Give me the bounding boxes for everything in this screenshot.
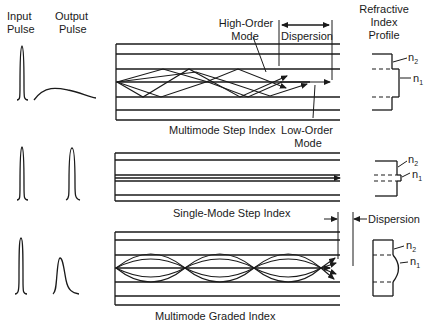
panel-multimode-graded-index: Dispersion Multimode Graded Index n2 n1 <box>15 212 420 322</box>
fiber-optic-modes-diagram: Input Pulse Output Pulse Refractive Inde… <box>0 0 429 325</box>
caption-multimode-step-index: Multimode Step Index <box>169 124 276 136</box>
low-order-mode-label-line2: Mode <box>294 137 322 149</box>
ri-label-line3: Profile <box>368 29 399 41</box>
dispersion-label-2: Dispersion <box>368 213 420 225</box>
fiber-graded-index <box>115 212 367 305</box>
ri-label-line1: Refractive <box>359 3 409 15</box>
profile-step-multimode <box>372 54 411 110</box>
profile-graded <box>373 240 408 296</box>
n2-label-3: n2 <box>406 239 416 253</box>
output-pulse-header: Output Pulse <box>55 10 88 35</box>
output-pulse-label-line2: Pulse <box>59 23 87 35</box>
input-pulse-graded <box>15 238 27 294</box>
n1-label-3: n1 <box>410 255 420 269</box>
input-pulse-header: Input Pulse <box>7 10 35 35</box>
panel-single-mode-step-index: Single-Mode Step Index n2 n1 <box>17 147 422 219</box>
output-pulse-graded <box>53 258 79 294</box>
output-pulse-single <box>66 148 80 200</box>
refractive-index-header: Refractive Index Profile <box>359 3 409 41</box>
panel-multimode-step-index: Dispersion High-Order Mode Multimode Ste… <box>17 17 423 149</box>
n2-label-2: n2 <box>408 153 418 167</box>
ri-label-line2: Index <box>371 16 398 28</box>
output-pulse-label-line1: Output <box>55 10 88 22</box>
output-pulse-broad <box>34 88 96 100</box>
high-order-mode-label-line1: High-Order <box>219 17 274 29</box>
profile-step-single <box>374 161 410 196</box>
input-pulse-label-line1: Input <box>7 10 31 22</box>
input-pulse-sharp <box>17 46 28 100</box>
dispersion-label-1: Dispersion <box>281 30 333 42</box>
n1-label-1: n1 <box>413 72 423 86</box>
low-order-mode-leader <box>313 85 315 118</box>
low-order-mode-label-line1: Low-Order <box>281 124 333 136</box>
caption-multimode-graded-index: Multimode Graded Index <box>155 310 276 322</box>
n1-label-2: n1 <box>412 168 422 182</box>
input-pulse-single <box>17 147 28 200</box>
n2-label-1: n2 <box>408 51 418 65</box>
caption-single-mode-step-index: Single-Mode Step Index <box>173 207 291 219</box>
fiber-single-mode <box>115 153 340 201</box>
input-pulse-label-line2: Pulse <box>7 23 35 35</box>
